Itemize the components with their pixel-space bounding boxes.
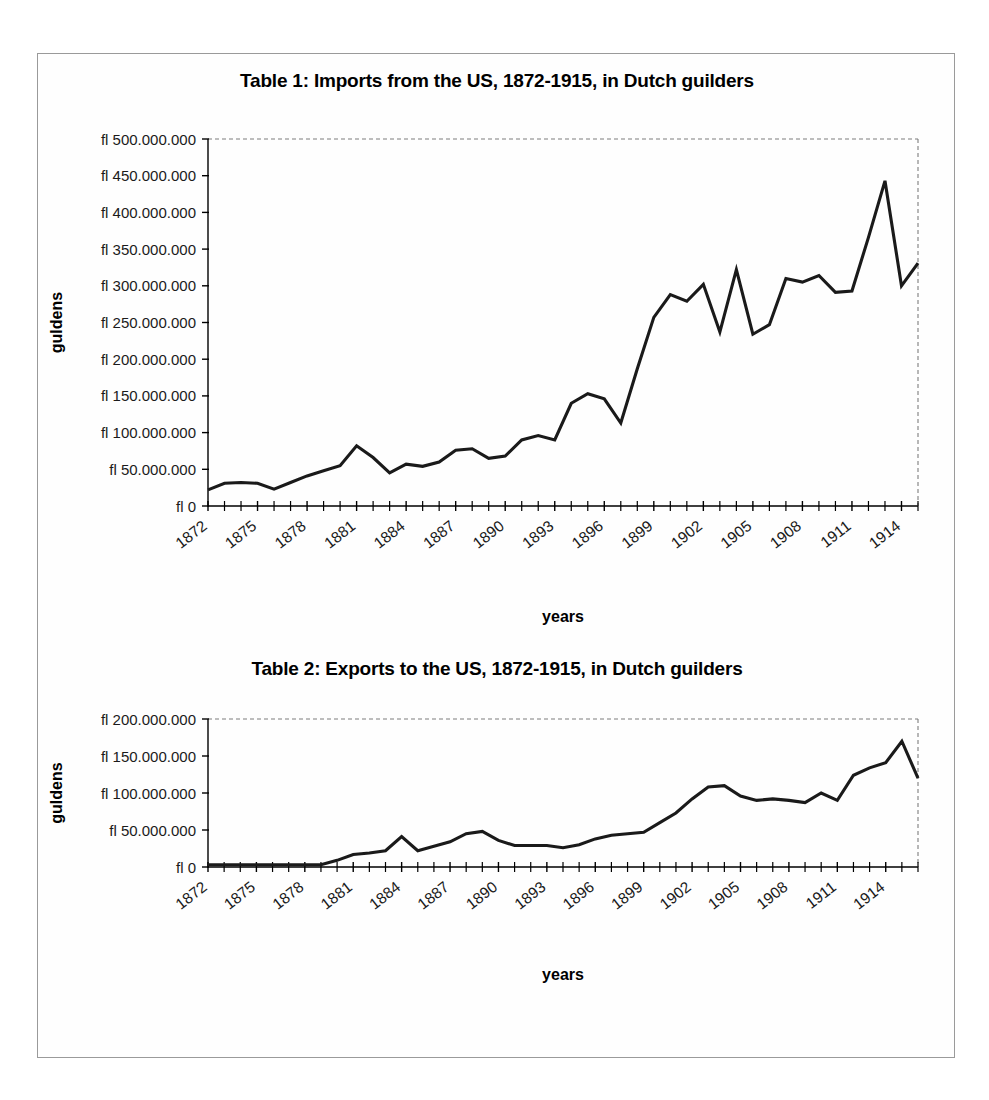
x-tick-label: 1881 (317, 878, 355, 913)
y-tick-label: fl 350.000.000 (101, 241, 196, 258)
x-tick-label: 1887 (414, 878, 452, 913)
x-tick-label: 1902 (656, 878, 694, 913)
y-tick-label: fl 50.000.000 (109, 461, 196, 478)
y-tick-label: fl 150.000.000 (101, 748, 196, 765)
plot-frame-lb (208, 719, 918, 867)
x-tick-label: 1914 (850, 878, 888, 913)
y-tick-label: fl 200.000.000 (101, 711, 196, 728)
y-tick-label: fl 100.000.000 (101, 785, 196, 802)
chart2-title: Table 2: Exports to the US, 1872-1915, i… (38, 654, 956, 680)
x-tick-label: 1899 (608, 878, 646, 913)
x-tick-label: 1911 (817, 517, 854, 551)
chart1-title: Table 1: Imports from the US, 1872-1915,… (38, 54, 956, 92)
x-axis-label: years (542, 608, 584, 625)
x-tick-label: 1899 (618, 517, 656, 552)
x-tick-label: 1890 (469, 517, 507, 552)
x-axis-label: years (542, 966, 584, 983)
x-tick-label: 1908 (767, 517, 805, 552)
x-tick-label: 1905 (717, 517, 755, 552)
x-tick-label: 1896 (559, 878, 597, 913)
chart1-plot-area: fl 0fl 50.000.000fl 100.000.000fl 150.00… (38, 92, 956, 652)
y-tick-label: fl 400.000.000 (101, 204, 196, 221)
plot-frame-lb (208, 139, 918, 506)
x-tick-label: 1896 (568, 517, 606, 552)
chart2-plot-area: fl 0fl 50.000.000fl 100.000.000fl 150.00… (38, 680, 956, 1050)
y-tick-label: fl 0 (176, 498, 196, 515)
x-tick-label: 1908 (753, 878, 791, 913)
x-tick-label: 1887 (420, 517, 458, 552)
x-tick-label: 1878 (271, 517, 309, 552)
x-tick-label: 1875 (221, 878, 259, 913)
x-tick-label: 1905 (705, 878, 743, 913)
x-tick-label: 1893 (511, 878, 549, 913)
y-tick-label: fl 500.000.000 (101, 131, 196, 148)
x-tick-label: 1878 (269, 878, 307, 913)
y-tick-label: fl 200.000.000 (101, 351, 196, 368)
chart2-svg: fl 0fl 50.000.000fl 100.000.000fl 150.00… (38, 680, 956, 1050)
x-tick-label: 1881 (321, 517, 359, 552)
y-axis-label: guldens (48, 292, 65, 353)
x-tick-label: 1902 (668, 517, 706, 552)
chart1-svg: fl 0fl 50.000.000fl 100.000.000fl 150.00… (38, 92, 956, 652)
data-series-line (208, 741, 918, 865)
x-tick-label: 1875 (222, 517, 260, 552)
x-tick-label: 1884 (366, 878, 404, 913)
y-axis-label: guldens (48, 762, 65, 823)
x-tick-label: 1914 (866, 517, 904, 552)
data-series-line (208, 181, 918, 490)
y-tick-label: fl 450.000.000 (101, 167, 196, 184)
page-top-margin (0, 0, 989, 50)
y-tick-label: fl 50.000.000 (109, 822, 196, 839)
chart-block-exports: Table 2: Exports to the US, 1872-1915, i… (38, 654, 956, 1059)
figure-frame: Table 1: Imports from the US, 1872-1915,… (37, 53, 955, 1058)
x-tick-label: 1893 (519, 517, 557, 552)
chart-block-imports: Table 1: Imports from the US, 1872-1915,… (38, 54, 956, 654)
x-tick-label: 1872 (172, 878, 210, 913)
y-tick-label: fl 150.000.000 (101, 387, 196, 404)
y-tick-label: fl 100.000.000 (101, 424, 196, 441)
x-tick-label: 1872 (172, 517, 210, 552)
x-tick-label: 1911 (802, 878, 839, 912)
y-tick-label: fl 250.000.000 (101, 314, 196, 331)
x-tick-label: 1890 (463, 878, 501, 913)
y-tick-label: fl 300.000.000 (101, 277, 196, 294)
y-tick-label: fl 0 (176, 859, 196, 876)
x-tick-label: 1884 (370, 517, 408, 552)
